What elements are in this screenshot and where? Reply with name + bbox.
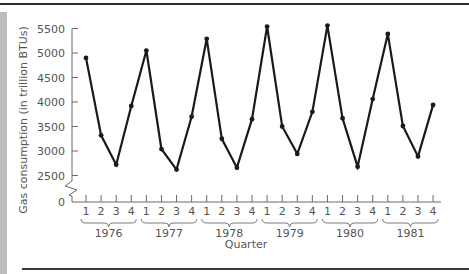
x-tick-label: 4 [430, 205, 437, 218]
data-point-marker [310, 109, 315, 114]
x-tick-label: 3 [173, 205, 180, 218]
data-point-marker [355, 164, 360, 169]
x-tick-label: 1 [143, 205, 150, 218]
data-point-marker [159, 147, 164, 152]
x-tick-label: 2 [158, 205, 165, 218]
x-tick-label: 2 [279, 205, 286, 218]
data-point-marker [129, 104, 134, 109]
data-point-marker [400, 124, 405, 129]
data-point-marker [295, 152, 300, 157]
y-tick-label: 5500 [37, 23, 65, 36]
x-tick-label: 1 [324, 205, 331, 218]
y-tick-label: 4000 [37, 96, 65, 109]
chart-figure: Gas consumption (in trillion BTUs) 02500… [0, 0, 469, 274]
x-tick-label: 2 [98, 205, 105, 218]
data-point-marker [265, 24, 270, 29]
y-tick-label: 0 [58, 196, 65, 209]
x-tick-label: 3 [414, 205, 421, 218]
x-tick-label: 1 [384, 205, 391, 218]
data-point-marker [431, 103, 436, 108]
year-label: 1977 [155, 227, 183, 240]
data-point-marker [370, 97, 375, 102]
year-brace-icon [81, 219, 136, 227]
year-label: 1980 [336, 227, 364, 240]
y-tick-label: 5000 [37, 47, 65, 60]
year-label: 1976 [95, 227, 123, 240]
y-axis-label: Gas consumption (in trillion BTUs) [17, 26, 30, 214]
x-axis-label: Quarter [225, 238, 268, 251]
x-tick-label: 1 [203, 205, 210, 218]
x-tick-label: 2 [218, 205, 225, 218]
year-brace-icon [141, 219, 196, 227]
x-tick-label: 1 [83, 205, 90, 218]
data-point-marker [250, 117, 255, 122]
x-tick-label: 4 [309, 205, 316, 218]
data-point-marker [340, 116, 345, 121]
data-point-marker [385, 31, 390, 36]
year-label: 1979 [276, 227, 304, 240]
y-tick-label: 3500 [37, 121, 65, 134]
data-point-marker [235, 165, 240, 170]
data-point-marker [280, 124, 285, 129]
x-tick-label: 4 [248, 205, 255, 218]
year-brace-icon [383, 219, 438, 227]
year-brace-icon [322, 219, 377, 227]
line-chart: Gas consumption (in trillion BTUs) 02500… [0, 0, 469, 274]
x-tick-label: 4 [369, 205, 376, 218]
data-point-marker [219, 136, 224, 141]
x-tick-label: 2 [339, 205, 346, 218]
x-axis: 1234123412341234123412341976197719781979… [72, 195, 441, 240]
x-tick-label: 3 [294, 205, 301, 218]
x-tick-label: 2 [399, 205, 406, 218]
data-point-marker [416, 154, 421, 159]
data-point-marker [144, 48, 149, 53]
data-point-marker [99, 133, 104, 138]
axis-break-icon [65, 181, 77, 202]
x-tick-label: 3 [233, 205, 240, 218]
data-point-marker [114, 162, 119, 167]
x-tick-label: 4 [188, 205, 195, 218]
year-brace-icon [202, 219, 257, 227]
data-point-marker [174, 167, 179, 172]
x-tick-label: 3 [113, 205, 120, 218]
y-axis: 02500300035004000450050005500 [37, 23, 78, 210]
y-tick-label: 2500 [37, 170, 65, 183]
data-point-marker [189, 114, 194, 119]
x-tick-label: 1 [264, 205, 271, 218]
data-point-marker [84, 56, 89, 61]
y-tick-label: 4500 [37, 72, 65, 85]
data-series [84, 23, 436, 172]
y-tick-label: 3000 [37, 145, 65, 158]
year-label: 1981 [396, 227, 424, 240]
year-brace-icon [262, 219, 317, 227]
x-tick-label: 4 [128, 205, 135, 218]
x-tick-label: 3 [354, 205, 361, 218]
series-line [86, 26, 433, 170]
data-point-marker [204, 36, 209, 41]
data-point-marker [325, 23, 330, 28]
